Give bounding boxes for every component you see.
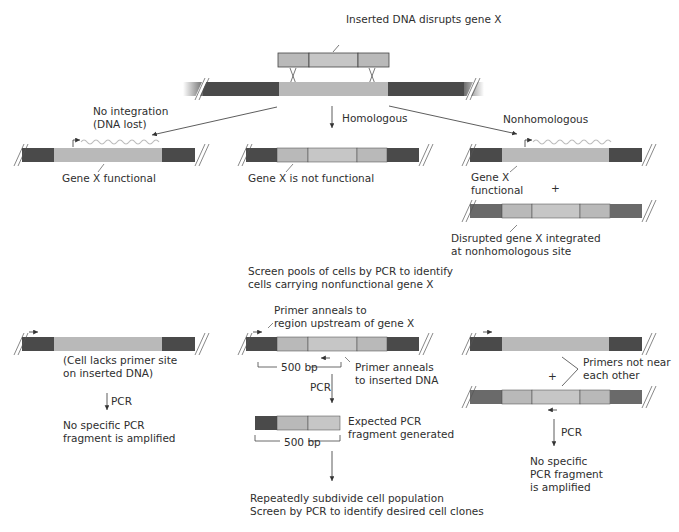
plus-sign: + <box>551 182 560 195</box>
pcr-right-label: PCR <box>561 426 582 439</box>
pcr-chromosomes-right <box>462 332 656 446</box>
plus-sign-right: + <box>548 370 557 383</box>
no-integration-label: No integration (DNA lost) <box>93 105 168 131</box>
chromosome-nonhomologous-functional <box>462 140 656 172</box>
span-500bp-label: 500 bp <box>281 361 318 374</box>
arrow-no-integration <box>152 107 277 135</box>
pcr-middle-label: PCR <box>310 381 331 394</box>
nonhomologous-label: Nonhomologous <box>503 113 588 126</box>
arrow-nonhomologous <box>389 106 517 134</box>
chromosome-homologous <box>238 144 433 172</box>
disrupted-gene-label: Disrupted gene X integrated at nonhomolo… <box>451 232 601 258</box>
primers-not-near-label: Primers not near each other <box>583 356 671 382</box>
final-step-label: Repeatedly subdivide cell population Scr… <box>250 492 484 518</box>
pcr-left-result: No specific PCR fragment is amplified <box>63 419 176 445</box>
crossover-marks <box>290 68 375 84</box>
nonhomologous-gene-functional-label: Gene X functional <box>471 171 523 197</box>
target-chromosome <box>183 78 484 100</box>
screen-title: Screen pools of cells by PCR to identify… <box>248 265 418 291</box>
gene-x-not-functional-label: Gene X is not functional <box>248 172 374 185</box>
expected-fragment-label: Expected PCR fragment generated <box>348 415 454 441</box>
chromosome-nonhomologous-disrupted <box>462 200 656 232</box>
inserted-dna-construct <box>278 45 389 67</box>
gene-x-functional-label: Gene X functional <box>62 172 156 185</box>
chromosome-no-integration <box>14 140 209 172</box>
primer-upstream-label: Primer anneals to region upstream of gen… <box>274 304 414 330</box>
pcr-left-label: PCR <box>111 395 132 408</box>
homologous-label: Homologous <box>342 112 408 125</box>
cell-lacks-primer-label: (Cell lacks primer site on inserted DNA) <box>63 354 177 380</box>
pcr-right-result: No specific PCR fragment is amplified <box>530 455 603 494</box>
inserted-dna-label: Inserted DNA disrupts gene X <box>346 13 501 26</box>
fragment-500bp-label: 500 bp <box>284 436 321 449</box>
primer-insert-label: Primer anneals to inserted DNA <box>355 361 438 387</box>
